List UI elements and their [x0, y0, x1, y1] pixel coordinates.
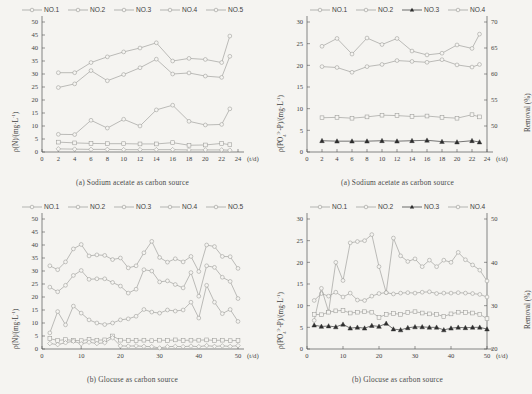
- svg-text:0: 0: [305, 155, 309, 162]
- panel-a-phosphorus: NO.1NO.2NO.3NO.4 ρ(PO43--P)/(mg·L-1) Rem…: [265, 0, 530, 197]
- svg-text:50: 50: [491, 122, 498, 129]
- panel-caption: (a) Sodium acetate as carbon source: [0, 178, 265, 187]
- svg-text:70: 70: [491, 18, 498, 25]
- svg-text:24: 24: [484, 155, 491, 162]
- svg-text:12: 12: [137, 155, 144, 162]
- svg-text:20: 20: [117, 352, 124, 359]
- svg-text:10: 10: [340, 352, 347, 359]
- svg-text:8: 8: [365, 155, 369, 162]
- svg-text:15: 15: [31, 306, 38, 313]
- svg-text:10: 10: [31, 122, 38, 129]
- svg-text:(t/d): (t/d): [247, 352, 259, 360]
- svg-text:10: 10: [379, 155, 386, 162]
- svg-text:20: 20: [491, 345, 498, 352]
- svg-text:10: 10: [78, 352, 85, 359]
- panel-b-nitrogen: NO.1NO.2NO.3NO.4NO.5 ρ(N)/(mg·L-1) 05101…: [0, 197, 265, 394]
- svg-text:35: 35: [31, 254, 38, 261]
- svg-text:0: 0: [300, 148, 304, 155]
- svg-text:45: 45: [31, 228, 38, 235]
- svg-text:40: 40: [448, 352, 455, 359]
- svg-text:(t/d): (t/d): [247, 155, 259, 163]
- svg-text:30: 30: [31, 267, 38, 274]
- svg-text:10: 10: [120, 155, 127, 162]
- svg-text:50: 50: [31, 18, 38, 25]
- svg-text:16: 16: [424, 155, 431, 162]
- svg-text:8: 8: [106, 155, 110, 162]
- svg-text:24: 24: [235, 155, 242, 162]
- svg-text:45: 45: [31, 31, 38, 38]
- svg-text:14: 14: [153, 155, 160, 162]
- svg-text:(t/d): (t/d): [496, 155, 508, 163]
- svg-text:30: 30: [491, 302, 498, 309]
- plot-area-panel-b-phosphorus: 05101520253001020304050(t/d)20304050: [265, 197, 530, 394]
- svg-text:25: 25: [31, 83, 38, 90]
- svg-text:20: 20: [296, 62, 303, 69]
- svg-text:14: 14: [409, 155, 416, 162]
- svg-text:20: 20: [202, 155, 209, 162]
- svg-text:5: 5: [35, 332, 39, 339]
- svg-text:30: 30: [296, 18, 303, 25]
- panel-caption: (a) Sodium acetate as carbon source: [265, 178, 530, 187]
- svg-text:18: 18: [186, 155, 193, 162]
- svg-text:2: 2: [320, 155, 323, 162]
- plot-area-panel-b-nitrogen: 0510152025303540455001020304050(t/d): [0, 197, 265, 394]
- svg-text:25: 25: [31, 280, 38, 287]
- svg-text:6: 6: [350, 155, 354, 162]
- svg-text:50: 50: [31, 215, 38, 222]
- svg-text:55: 55: [491, 96, 498, 103]
- svg-text:18: 18: [439, 155, 446, 162]
- svg-text:50: 50: [235, 352, 242, 359]
- svg-text:25: 25: [296, 40, 303, 47]
- svg-text:15: 15: [31, 109, 38, 116]
- svg-text:5: 5: [300, 324, 304, 331]
- svg-text:10: 10: [296, 105, 303, 112]
- svg-text:50: 50: [491, 215, 498, 222]
- svg-text:10: 10: [296, 302, 303, 309]
- svg-text:0: 0: [40, 352, 44, 359]
- svg-text:60: 60: [491, 70, 498, 77]
- svg-text:20: 20: [296, 259, 303, 266]
- svg-text:4: 4: [73, 155, 77, 162]
- svg-text:22: 22: [469, 155, 476, 162]
- svg-text:6: 6: [89, 155, 93, 162]
- svg-text:40: 40: [196, 352, 203, 359]
- svg-text:15: 15: [296, 280, 303, 287]
- svg-text:35: 35: [31, 57, 38, 64]
- svg-text:0: 0: [300, 345, 304, 352]
- svg-text:40: 40: [31, 44, 38, 51]
- plot-area-panel-a-nitrogen: 0510152025303540455002468101214161820222…: [0, 0, 265, 197]
- svg-text:40: 40: [31, 241, 38, 248]
- svg-text:20: 20: [376, 352, 383, 359]
- svg-text:65: 65: [491, 44, 498, 51]
- svg-text:20: 20: [31, 293, 38, 300]
- svg-text:40: 40: [491, 259, 498, 266]
- svg-text:0: 0: [35, 148, 39, 155]
- svg-text:30: 30: [156, 352, 163, 359]
- svg-text:50: 50: [484, 352, 491, 359]
- svg-text:16: 16: [169, 155, 176, 162]
- svg-text:2: 2: [57, 155, 60, 162]
- svg-text:20: 20: [454, 155, 461, 162]
- svg-text:30: 30: [31, 70, 38, 77]
- panel-caption: (b) Glocuse as carbon source: [265, 375, 530, 384]
- panel-a-nitrogen: NO.1NO.2NO.3NO.4NO.5 ρ(N)/(mg·L-1) 05101…: [0, 0, 265, 197]
- svg-text:0: 0: [40, 155, 44, 162]
- svg-text:10: 10: [31, 319, 38, 326]
- svg-text:4: 4: [335, 155, 339, 162]
- svg-text:25: 25: [296, 237, 303, 244]
- svg-text:20: 20: [31, 96, 38, 103]
- svg-text:5: 5: [35, 135, 39, 142]
- svg-text:30: 30: [412, 352, 419, 359]
- svg-text:0: 0: [35, 345, 39, 352]
- svg-text:22: 22: [218, 155, 225, 162]
- panel-b-phosphorus: NO.1NO.2NO.3NO.4 ρ(PO43--P)/(mg·L-1) Rem…: [265, 197, 530, 394]
- svg-text:(t/d): (t/d): [496, 352, 508, 360]
- panel-caption: (b) Glocuse as carbon source: [0, 375, 265, 384]
- svg-text:12: 12: [394, 155, 401, 162]
- svg-text:5: 5: [300, 127, 304, 134]
- svg-text:30: 30: [296, 215, 303, 222]
- svg-text:15: 15: [296, 83, 303, 90]
- svg-text:0: 0: [305, 352, 309, 359]
- plot-area-panel-a-phosphorus: 051015202530024681012141618202224(t/d)50…: [265, 0, 530, 197]
